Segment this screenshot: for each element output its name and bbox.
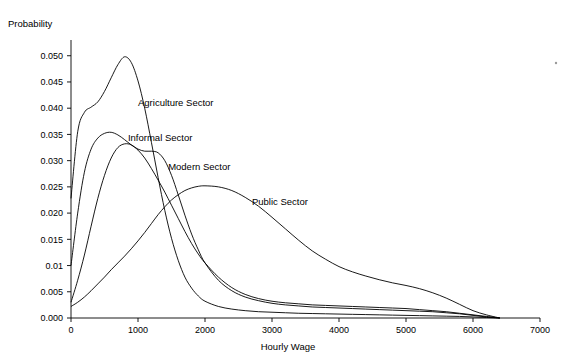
x-tick-label: 7000: [530, 325, 550, 335]
y-tick-label: 0.040: [40, 103, 63, 113]
x-tick-label: 2000: [195, 325, 215, 335]
series-label: Informal Sector: [128, 132, 192, 143]
series-curves: [71, 57, 500, 318]
y-tick-label: 0.035: [40, 130, 63, 140]
x-tick-label: 3000: [262, 325, 282, 335]
series-label: Modern Sector: [168, 161, 230, 172]
y-tick-label: 0.005: [40, 287, 63, 297]
y-tick-label: 0.030: [40, 156, 63, 166]
series-label: Agriculture Sector: [138, 97, 214, 108]
series-curve: [71, 57, 500, 318]
series-label: Public Sector: [252, 196, 308, 207]
y-tick-label: 0.050: [40, 51, 63, 61]
x-tick-label: 1000: [128, 325, 148, 335]
x-tick-group: 01000200030004000500060007000: [68, 318, 550, 335]
y-tick-label: 0.020: [40, 208, 63, 218]
y-tick-label: 0.025: [40, 182, 63, 192]
y-tick-label: 0.015: [40, 235, 63, 245]
y-tick-label: 0.000: [40, 313, 63, 323]
x-tick-label: 0: [68, 325, 73, 335]
x-tick-label: 4000: [329, 325, 349, 335]
y-tick-label: 0.01: [45, 261, 63, 271]
y-tick-group: 0.0000.0050.010.0150.0200.0250.0300.0350…: [40, 51, 71, 323]
probability-density-plot: 0.0000.0050.010.0150.0200.0250.0300.0350…: [0, 0, 576, 364]
x-tick-label: 6000: [463, 325, 483, 335]
chart-container: Probability Hourly Wage 0.0000.0050.010.…: [0, 0, 576, 364]
y-tick-label: 0.045: [40, 77, 63, 87]
x-tick-label: 5000: [396, 325, 416, 335]
series-curve: [71, 144, 500, 318]
corner-speck: [555, 62, 557, 64]
series-curve: [71, 132, 500, 318]
axes: [71, 40, 540, 318]
